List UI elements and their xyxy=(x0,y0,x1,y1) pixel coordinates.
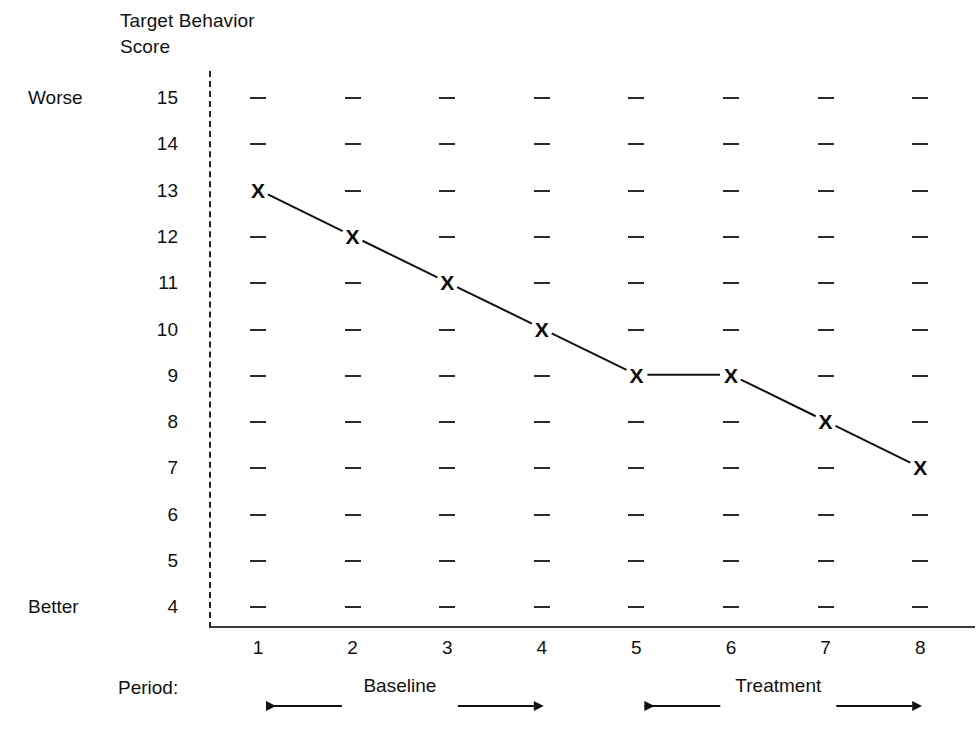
grid-dash xyxy=(439,329,455,331)
grid-dash xyxy=(534,282,550,284)
data-point-marker: X xyxy=(909,457,931,478)
grid-dash xyxy=(534,97,550,99)
grid-dash xyxy=(534,143,550,145)
data-line-segment xyxy=(835,426,910,463)
grid-dash xyxy=(818,375,834,377)
grid-dash xyxy=(250,375,266,377)
grid-dash xyxy=(912,421,928,423)
data-point-marker: X xyxy=(720,365,742,386)
grid-dash xyxy=(628,421,644,423)
grid-dash xyxy=(912,282,928,284)
grid-dash xyxy=(723,282,739,284)
grid-dash xyxy=(818,514,834,516)
grid-dash xyxy=(345,467,361,469)
grid-dash xyxy=(534,467,550,469)
grid-dash xyxy=(628,514,644,516)
grid-dash xyxy=(912,143,928,145)
y-axis-tick-label: 12 xyxy=(118,227,178,246)
grid-dash xyxy=(723,514,739,516)
grid-dash xyxy=(250,421,266,423)
grid-dash xyxy=(818,329,834,331)
grid-dash xyxy=(723,606,739,608)
grid-dash xyxy=(439,421,455,423)
grid-dash xyxy=(345,421,361,423)
grid-dash xyxy=(723,236,739,238)
grid-dash xyxy=(439,560,455,562)
phase-label: Treatment xyxy=(698,676,858,695)
data-line-segment xyxy=(268,194,343,231)
grid-dash xyxy=(345,375,361,377)
grid-dash xyxy=(345,329,361,331)
phase-change-line xyxy=(209,71,211,628)
grid-dash xyxy=(723,421,739,423)
grid-dash xyxy=(439,97,455,99)
grid-dash xyxy=(439,514,455,516)
y-axis-tick-label: 11 xyxy=(118,273,178,292)
y-axis-title-line-1: Target Behavior xyxy=(120,8,320,34)
grid-dash xyxy=(250,143,266,145)
grid-dash xyxy=(628,236,644,238)
grid-dash xyxy=(628,560,644,562)
y-axis-tick-label: 10 xyxy=(118,320,178,339)
grid-dash xyxy=(818,236,834,238)
grid-dash xyxy=(723,143,739,145)
grid-dash xyxy=(250,97,266,99)
data-point-marker: X xyxy=(531,319,553,340)
grid-dash xyxy=(818,97,834,99)
y-axis-tick-label: 6 xyxy=(118,505,178,524)
grid-dash xyxy=(818,560,834,562)
grid-dash xyxy=(345,190,361,192)
grid-dash xyxy=(723,190,739,192)
data-line-segment xyxy=(362,241,437,278)
grid-dash xyxy=(534,236,550,238)
x-axis-tick-label: 8 xyxy=(900,638,940,657)
data-point-marker: X xyxy=(436,272,458,293)
grid-dash xyxy=(628,282,644,284)
phase-label: Baseline xyxy=(320,676,480,695)
grid-dash xyxy=(912,375,928,377)
grid-dash xyxy=(345,143,361,145)
grid-dash xyxy=(250,606,266,608)
grid-dash xyxy=(628,606,644,608)
data-point-marker: X xyxy=(247,180,269,201)
x-axis-tick-label: 5 xyxy=(616,638,656,657)
data-line-segment xyxy=(457,287,532,324)
y-axis-tick-label: 7 xyxy=(118,458,178,477)
y-axis-title: Target Behavior Score xyxy=(120,8,320,60)
data-point-marker: X xyxy=(815,411,837,432)
y-axis-tick-label: 5 xyxy=(118,551,178,570)
y-axis-tick-label: 14 xyxy=(118,134,178,153)
grid-dash xyxy=(534,190,550,192)
grid-dash xyxy=(439,375,455,377)
grid-dash xyxy=(534,514,550,516)
grid-dash xyxy=(818,467,834,469)
grid-dash xyxy=(723,560,739,562)
grid-dash xyxy=(345,514,361,516)
x-axis-tick-label: 4 xyxy=(522,638,562,657)
grid-dash xyxy=(250,236,266,238)
x-axis-line xyxy=(210,626,975,628)
y-axis-tick-label: 4 xyxy=(118,597,178,616)
grid-dash xyxy=(912,329,928,331)
grid-dash xyxy=(345,282,361,284)
y-axis-title-line-2: Score xyxy=(120,34,320,60)
grid-dash xyxy=(628,190,644,192)
grid-dash xyxy=(912,97,928,99)
grid-dash xyxy=(723,97,739,99)
data-point-marker: X xyxy=(625,365,647,386)
grid-dash xyxy=(628,97,644,99)
chart-canvas: Target Behavior Score Worse Better 15141… xyxy=(0,0,977,729)
grid-dash xyxy=(345,606,361,608)
grid-dash xyxy=(439,236,455,238)
data-line-segment xyxy=(741,380,816,417)
grid-dash xyxy=(534,375,550,377)
x-axis-tick-label: 2 xyxy=(333,638,373,657)
y-axis-tick-label: 15 xyxy=(118,88,178,107)
period-row-label: Period: xyxy=(118,678,178,697)
grid-dash xyxy=(250,282,266,284)
grid-dash xyxy=(818,606,834,608)
grid-dash xyxy=(250,560,266,562)
grid-dash xyxy=(439,606,455,608)
data-point-marker: X xyxy=(342,226,364,247)
grid-dash xyxy=(534,421,550,423)
